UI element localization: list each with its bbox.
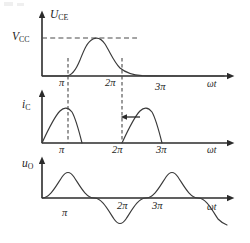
vcc-level-label: VCC [12,31,30,44]
vcc-label-main: V [12,30,19,42]
uce-tick-2pi: 2π [105,78,116,89]
uo-axis-label: ωt [207,203,216,213]
vcc-label-sub: CC [19,35,30,44]
ic-pulse-first [42,108,82,143]
panel-uce [42,17,228,76]
ic-axis-label: ωt [207,146,216,156]
uo-signal-label: uO [22,158,34,171]
uo-tick-2pi: 2π [117,201,128,212]
ic-pulse-second [122,108,162,143]
uce-tick-pi: π [59,78,64,89]
ic-label-sub: C [25,103,30,112]
waveform-figure: UCE VCC π 2π 3π ωt iC π 2π 3π ωt uO π 2π… [0,0,250,243]
ic-tick-pi: π [59,145,64,156]
ic-tick-3pi: 3π [156,145,167,156]
uce-label-sub: CE [58,13,68,22]
uce-tick-3pi: 3π [155,82,166,93]
panel-ic [42,96,228,143]
uo-label-sub: O [28,162,34,171]
uce-axis-label: ωt [207,80,216,90]
uo-tick-pi: π [62,208,67,219]
uce-signal-label: UCE [50,9,69,22]
panel-uo [42,163,228,225]
uce-waveform [42,38,224,76]
ic-tick-2pi: 2π [112,145,123,156]
ic-signal-label: iC [22,99,31,112]
uo-tick-3pi: 3π [152,201,163,212]
